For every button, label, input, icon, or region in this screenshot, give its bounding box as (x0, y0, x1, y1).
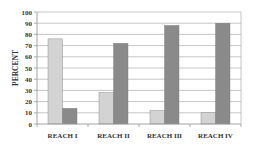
bar-2-reach-4 (216, 23, 231, 124)
y-tick-label: 50 (25, 65, 33, 73)
bar-1-reach-4 (201, 113, 216, 124)
bar-1-reach-1 (48, 39, 63, 124)
bar-2-reach-1 (63, 108, 78, 124)
x-category-label: REACH IV (198, 132, 233, 140)
y-tick-label: 60 (25, 53, 33, 61)
y-axis-ticks: 0102030405060708090100 (22, 9, 38, 129)
gridlines (37, 12, 241, 113)
y-tick-label: 40 (25, 76, 33, 84)
x-category-label: REACH II (97, 132, 130, 140)
y-tick-label: 100 (22, 9, 33, 17)
bar-chart: 0102030405060708090100 REACH IREACH IIRE… (0, 0, 254, 152)
bar-1-reach-3 (150, 111, 165, 124)
bar-1-reach-2 (99, 93, 114, 124)
y-axis-title: PERCENT (11, 50, 20, 86)
y-tick-label: 70 (25, 42, 33, 50)
y-tick-label: 10 (25, 109, 33, 117)
bars (48, 23, 230, 124)
y-tick-label: 80 (25, 31, 33, 39)
y-tick-label: 20 (25, 98, 33, 106)
x-category-label: REACH I (48, 132, 78, 140)
x-category-label: REACH III (147, 132, 182, 140)
bar-2-reach-3 (165, 25, 180, 124)
y-tick-label: 0 (29, 121, 33, 129)
bar-2-reach-2 (114, 43, 129, 124)
y-tick-label: 30 (25, 87, 33, 95)
x-axis-labels: REACH IREACH IIREACH IIIREACH IV (48, 132, 233, 140)
y-tick-label: 90 (25, 20, 33, 28)
